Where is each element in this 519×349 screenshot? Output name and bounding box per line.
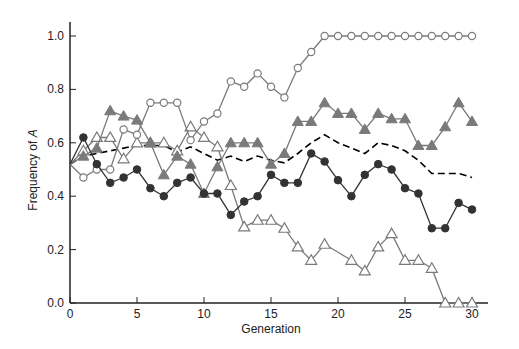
filled-triangle-marker [440, 121, 451, 131]
open-triangle-marker [386, 228, 397, 238]
y-tick-label: 0.6 [47, 136, 64, 150]
filled-circle-marker [334, 176, 342, 184]
filled-triangle-marker [292, 116, 303, 126]
open-triangle-marker [346, 255, 357, 265]
x-axis-title: Generation [241, 322, 300, 336]
open-triangle-marker [319, 239, 330, 249]
y-tick-label: 0.2 [47, 243, 64, 257]
filled-circle-marker [348, 192, 356, 200]
filled-triangle-marker [212, 161, 223, 171]
filled-circle-marker [133, 166, 141, 174]
open-circle-marker [187, 137, 194, 144]
open-circle-marker [281, 94, 288, 101]
open-circle-marker [120, 126, 127, 133]
open-triangle-marker [212, 141, 223, 151]
y-tick-label: 0.4 [47, 189, 64, 203]
filled-triangle-marker [306, 116, 317, 126]
series-line [70, 103, 472, 194]
open-circle-marker [147, 99, 154, 106]
filled-circle-marker [254, 192, 262, 200]
series-open-circle [70, 32, 476, 181]
open-triangle-marker [400, 255, 411, 265]
filled-triangle-marker [453, 97, 464, 107]
open-circle-marker [401, 32, 408, 39]
filled-triangle-marker [185, 159, 196, 169]
open-circle-marker [415, 32, 422, 39]
open-triangle-marker [225, 180, 236, 190]
filled-triangle-marker [400, 113, 411, 123]
open-circle-marker [388, 32, 395, 39]
open-circle-marker [241, 83, 248, 90]
x-tick-label: 10 [197, 307, 211, 321]
filled-triangle-marker [91, 143, 102, 153]
open-circle-marker [267, 83, 274, 90]
filled-circle-marker [187, 174, 195, 182]
filled-circle-marker [388, 166, 396, 174]
x-tick-label: 0 [67, 307, 74, 321]
filled-triangle-marker [319, 97, 330, 107]
open-triangle-marker [199, 132, 210, 142]
filled-circle-marker [321, 158, 329, 166]
filled-circle-marker [374, 160, 382, 168]
filled-circle-marker [160, 192, 168, 200]
y-tick-label: 0.0 [47, 296, 64, 310]
open-triangle-marker [105, 132, 116, 142]
x-tick-label: 25 [398, 307, 412, 321]
filled-circle-marker [428, 224, 436, 232]
filled-circle-marker [281, 179, 289, 187]
open-triangle-marker [413, 255, 424, 265]
filled-circle-marker [214, 190, 222, 198]
plot-series [70, 32, 478, 307]
y-axis-title: Frequency of A [26, 129, 40, 210]
open-circle-marker [254, 70, 261, 77]
open-circle-marker [428, 32, 435, 39]
open-circle-marker [348, 32, 355, 39]
filled-circle-marker [415, 190, 423, 198]
open-circle-marker [375, 32, 382, 39]
filled-circle-marker [147, 184, 155, 192]
filled-circle-marker [307, 150, 315, 158]
filled-circle-marker [455, 199, 463, 207]
open-circle-marker [107, 166, 114, 173]
open-triangle-marker [359, 265, 370, 275]
open-circle-marker [455, 32, 462, 39]
filled-triangle-marker [158, 169, 169, 179]
x-tick-label: 15 [264, 307, 278, 321]
filled-circle-marker [441, 224, 449, 232]
filled-triangle-marker [426, 140, 437, 150]
open-triangle-marker [158, 137, 169, 147]
filled-circle-marker [227, 211, 235, 219]
filled-circle-marker [106, 179, 114, 187]
x-tick-label: 5 [134, 307, 141, 321]
open-circle-marker [214, 110, 221, 117]
open-circle-marker [227, 78, 234, 85]
frequency-chart: 0.00.20.40.60.81.0 051015202530 Generati… [0, 0, 519, 349]
open-triangle-marker [266, 215, 277, 225]
filled-triangle-marker [239, 137, 250, 147]
filled-triangle-marker [386, 113, 397, 123]
open-circle-marker [133, 131, 140, 138]
open-circle-marker [442, 32, 449, 39]
filled-circle-marker [267, 171, 275, 179]
open-circle-marker [200, 118, 207, 125]
y-axis-title-plain: Frequency of [26, 137, 40, 210]
open-triangle-marker [279, 223, 290, 233]
filled-triangle-marker [252, 137, 263, 147]
filled-circle-marker [361, 171, 369, 179]
open-circle-marker [334, 32, 341, 39]
y-tick-label: 0.8 [47, 82, 64, 96]
filled-triangle-marker [105, 105, 116, 115]
filled-circle-marker [401, 184, 409, 192]
open-circle-marker [308, 48, 315, 55]
filled-triangle-marker [279, 148, 290, 158]
open-circle-marker [468, 32, 475, 39]
filled-circle-marker [120, 174, 128, 182]
filled-triangle-marker [346, 108, 357, 118]
filled-triangle-marker [266, 159, 277, 169]
filled-circle-marker [240, 198, 248, 206]
filled-triangle-marker [145, 137, 156, 147]
filled-triangle-marker [413, 140, 424, 150]
open-triangle-marker [239, 221, 250, 231]
open-triangle-marker [292, 241, 303, 251]
filled-circle-marker [173, 179, 181, 187]
